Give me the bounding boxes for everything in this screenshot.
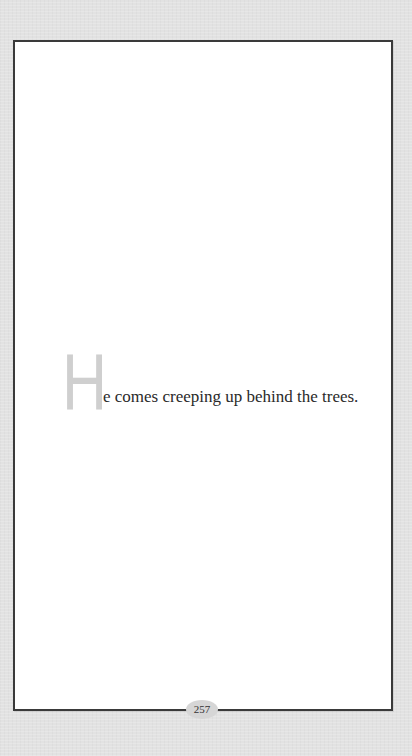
body-text: e comes creeping up behind the trees. (103, 387, 358, 407)
page-number: 257 (194, 704, 211, 715)
page-number-badge: 257 (186, 700, 218, 719)
page-frame: H e comes creeping up behind the trees. (13, 40, 393, 711)
drop-cap: H (62, 342, 107, 422)
